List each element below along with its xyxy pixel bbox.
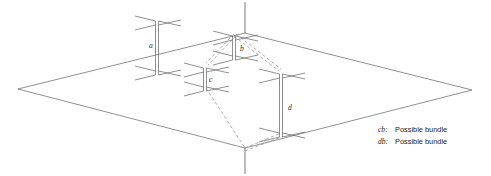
column-b-top-flange-right-lower <box>236 35 259 40</box>
legend-label-db: Possible bundle <box>395 136 447 148</box>
column-a-top-flange-right-lower <box>159 20 182 25</box>
legend-key-cb: cb: <box>378 124 395 136</box>
beam-label-c: c <box>209 75 213 84</box>
beam-label-b: b <box>240 44 244 53</box>
column-a-bottom-flange-right <box>159 71 182 76</box>
legend-key-db: db: <box>378 136 395 148</box>
column-c-bottom-flange-left <box>184 82 204 87</box>
bundle-cb-upper-offset <box>208 36 236 65</box>
column-a-top-flange-right <box>159 21 182 26</box>
column-c-bottom-flange-left-lower <box>184 91 204 96</box>
column-c <box>184 63 229 96</box>
column-c-top-flange-left <box>184 63 204 68</box>
column-c-top-flange-left-lower <box>184 72 204 77</box>
legend: cb: Possible bundle db: Possible bundle <box>378 124 490 147</box>
column-c-bottom-flange-right <box>207 87 230 92</box>
isometric-frame-diagram: a b c <box>0 0 491 176</box>
column-a-top-flange-left-lower <box>135 25 156 30</box>
column-b-bottom-flange-right-lower <box>236 55 259 60</box>
column-d-top-flange-left-lower <box>259 78 280 83</box>
bundle-db-upper-offset <box>234 36 279 71</box>
column-d-bottom-flange-left <box>259 128 280 133</box>
column-c-bottom-flange-right-lower <box>207 86 230 91</box>
column-d-top-flange-left <box>259 69 280 74</box>
column-a-bottom-flange-left-lower <box>135 75 156 80</box>
column-b-top-flange-right <box>236 36 259 41</box>
column-b-top-flange-left-lower <box>213 40 233 45</box>
beam-label-a: a <box>149 41 153 50</box>
column-b-bottom-flange-right <box>236 56 259 61</box>
legend-row-db: db: Possible bundle <box>378 136 490 148</box>
column-d-top-flange-right <box>283 74 306 79</box>
column-b-bottom-flange-left <box>213 51 233 56</box>
column-a-bottom-flange-left <box>135 66 156 71</box>
column-a-top-flange-left <box>135 16 156 21</box>
column-a <box>135 16 181 80</box>
column-d <box>259 69 305 142</box>
column-d-top-flange-right-lower <box>283 73 306 78</box>
legend-label-cb: Possible bundle <box>395 124 447 136</box>
column-c-top-flange-right-lower <box>207 67 230 72</box>
column-a-bottom-flange-right-lower <box>159 70 182 75</box>
column-b-bottom-flange-left-lower <box>213 60 233 65</box>
column-d-bottom-flange-right-lower <box>283 132 306 137</box>
legend-row-cb: cb: Possible bundle <box>378 124 490 136</box>
bundle-cb-upper <box>206 34 234 63</box>
beam-label-d: d <box>288 103 292 112</box>
column-c-top-flange-right <box>207 68 230 73</box>
column-b-top-flange-left <box>213 31 233 36</box>
bundle-db-lower-offset <box>245 137 281 151</box>
